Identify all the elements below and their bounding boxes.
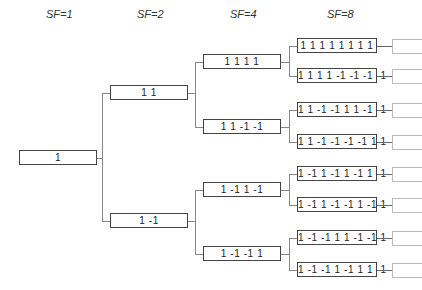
connector [377,174,392,175]
code-node-sf8: 1 1 1 1 -1 -1 -1 -1 [297,68,377,83]
connector [392,181,422,182]
connector [188,93,195,94]
connector [188,221,195,222]
connector [289,205,297,206]
code-node-sf8: 1 -1 1 -1 -1 1 -1 1 [297,197,377,212]
connector [281,190,289,191]
code-node-sf4: 1 -1 -1 1 [203,246,281,261]
connector [392,231,393,246]
connector [195,62,196,127]
header-sf2: SF=2 [137,8,164,20]
code-node-sf8: 1 1 -1 -1 1 1 -1 -1 [297,102,377,117]
connector [281,254,289,255]
connector [195,127,203,128]
connector [392,117,422,118]
connector [392,39,422,40]
connector [289,174,297,175]
connector [289,110,297,111]
connector [392,103,422,104]
connector [392,167,422,168]
code-node-sf4: 1 1 1 1 [203,54,281,69]
connector [102,93,103,221]
connector [377,76,392,77]
connector [377,110,392,111]
connector [392,69,393,84]
connector [377,238,392,239]
connector [102,93,110,94]
connector [392,103,393,118]
connector [392,135,422,136]
connector [392,198,393,213]
connector [289,76,297,77]
code-node-sf8: 1 -1 -1 1 -1 1 1 -1 [297,262,377,277]
connector [392,53,422,54]
code-node-sf8: 1 -1 1 -1 1 -1 1 -1 [297,166,377,181]
connector [289,142,297,143]
connector [392,263,393,278]
connector [289,110,290,142]
connector [289,46,297,47]
connector [289,270,297,271]
connector [289,46,290,76]
connector [377,205,392,206]
header-sf1: SF=1 [46,8,73,20]
connector [392,167,393,182]
connector [392,69,422,70]
code-node-sf4: 1 -1 1 -1 [203,182,281,197]
connector [392,198,422,199]
header-sf8: SF=8 [327,8,354,20]
code-node-sf8: 1 -1 -1 1 1 -1 -1 1 [297,230,377,245]
connector [377,270,392,271]
connector [281,62,289,63]
connector [392,39,393,54]
connector [377,142,392,143]
connector [392,135,393,150]
connector [289,238,297,239]
connector [377,46,392,47]
connector [392,245,422,246]
code-node-sf8: 1 1 1 1 1 1 1 1 [297,38,377,53]
code-node-sf1: 1 [19,150,97,165]
connector [392,231,422,232]
connector [289,238,290,270]
connector [392,263,422,264]
connector [195,190,196,254]
connector [281,127,289,128]
code-node-sf4: 1 1 -1 -1 [203,119,281,134]
connector [392,212,422,213]
connector [392,83,422,84]
connector [392,149,422,150]
code-node-sf2: 1 1 [110,85,188,100]
connector [102,221,110,222]
connector [195,62,203,63]
code-node-sf2: 1 -1 [110,213,188,228]
connector [195,254,203,255]
header-sf4: SF=4 [230,8,257,20]
connector [195,190,203,191]
connector [392,277,422,278]
code-node-sf8: 1 1 -1 -1 -1 -1 1 1 [297,134,377,149]
connector [289,174,290,205]
